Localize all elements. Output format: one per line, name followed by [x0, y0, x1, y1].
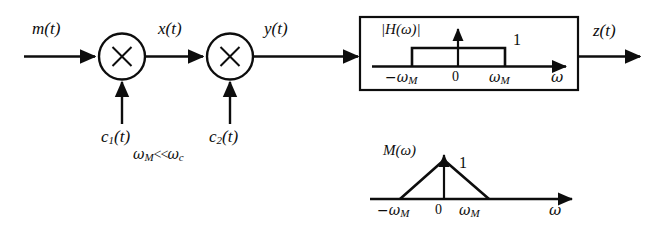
label-filter-neg-cutoff: −ωM: [385, 70, 417, 86]
filter-neg-cutoff-subscript: M: [408, 74, 417, 86]
label-carrier-2: c2(t): [209, 128, 238, 146]
label-carrier-1: c1(t): [101, 128, 130, 146]
label-filter-pos-cutoff: ωM: [489, 70, 510, 86]
label-y-signal: y(t): [264, 20, 288, 37]
filter-neg-cutoff-symbol: −ω: [385, 69, 408, 85]
label-spectrum-title: M(ω): [383, 143, 416, 158]
label-spectrum-axis: ω: [549, 203, 561, 218]
spectrum-pos-cutoff-symbol: ω: [459, 202, 470, 218]
label-output-signal: z(t): [593, 22, 616, 39]
condition-lhs: ω: [133, 146, 144, 162]
label-filter-axis: ω: [551, 70, 563, 85]
carrier-1-name: c: [101, 127, 109, 146]
condition-lhs-subscript: M: [144, 151, 153, 163]
spectrum-neg-cutoff-subscript: M: [400, 207, 409, 219]
label-x-signal: x(t): [158, 20, 182, 37]
diagram-canvas: [0, 0, 654, 232]
label-spectrum-origin: 0: [435, 203, 442, 217]
condition-relation: <<: [154, 147, 168, 162]
label-spectrum-peak-value: 1: [459, 155, 467, 171]
filter-pos-cutoff-symbol: ω: [489, 69, 500, 85]
label-filter-origin: 0: [452, 70, 459, 84]
label-spectrum-pos-cutoff: ωM: [459, 203, 480, 219]
label-spectrum-neg-cutoff: −ωM: [377, 203, 409, 219]
spectrum-pos-cutoff-subscript: M: [470, 207, 479, 219]
block-diagram-figure: m(t) x(t) y(t) z(t) c1(t) c2(t) ωM<<ωc |…: [0, 0, 654, 232]
label-input-signal: m(t): [32, 20, 60, 37]
label-bandwidth-condition: ωM<<ωc: [133, 147, 184, 163]
condition-rhs: ω: [167, 146, 178, 162]
filter-pos-cutoff-subscript: M: [500, 74, 509, 86]
spectrum-neg-cutoff-symbol: −ω: [377, 202, 400, 218]
label-filter-peak-value: 1: [513, 32, 521, 48]
condition-rhs-subscript: c: [179, 151, 184, 163]
carrier-1-arg: (t): [114, 127, 130, 146]
carrier-2-name: c: [209, 127, 217, 146]
label-filter-magnitude-title: |H(ω)|: [381, 22, 421, 37]
carrier-2-arg: (t): [222, 127, 238, 146]
